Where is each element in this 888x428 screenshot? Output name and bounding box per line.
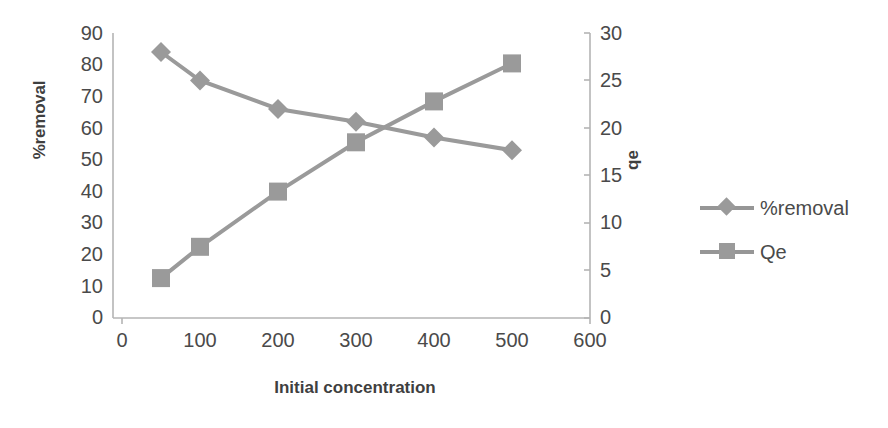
series-qe (152, 54, 521, 287)
data-point-square (347, 133, 365, 151)
right-axis-ticks (584, 33, 590, 318)
data-point-diamond (424, 128, 444, 148)
legend-item-qe[interactable]: Qe (700, 230, 849, 274)
data-point-square (425, 92, 443, 110)
data-point-square (191, 238, 209, 256)
series-removal (151, 42, 522, 160)
legend-label: Qe (760, 241, 787, 264)
square-marker-icon (700, 241, 754, 263)
data-point-diamond (346, 112, 366, 132)
data-point-square (269, 183, 287, 201)
x-axis-ticks (122, 318, 590, 324)
legend-item-removal[interactable]: %removal (700, 186, 849, 230)
diamond-marker-icon (700, 197, 754, 219)
legend-label: %removal (760, 197, 849, 220)
data-point-diamond (502, 140, 522, 160)
data-point-diamond (268, 99, 288, 119)
legend: %removal Qe (700, 186, 849, 274)
series-line (161, 63, 512, 278)
axis-lines (113, 33, 590, 318)
series-line (161, 52, 512, 150)
data-series-layer (151, 42, 522, 287)
chart-figure: %removal qe Initial concentration 90 80 … (0, 0, 888, 428)
data-point-square (503, 54, 521, 72)
data-point-square (152, 269, 170, 287)
